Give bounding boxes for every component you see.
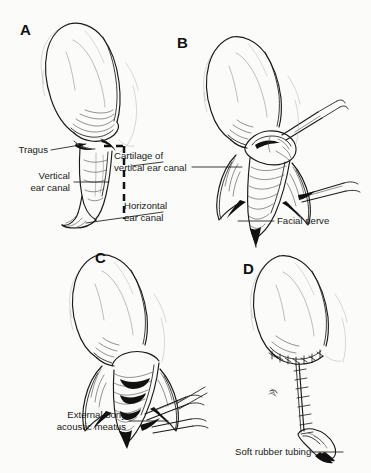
label-external-bony-acoustic-meatus: External bony acoustic meatus — [22, 409, 126, 432]
panel-letter-d: D — [243, 261, 254, 276]
illustration-artboard: .o { fill:none; stroke:#1a1a1a; stroke-w… — [0, 0, 371, 473]
label-facial-nerve: Facial nerve — [277, 215, 362, 227]
panel-letter-c: C — [95, 250, 106, 265]
panel-letter-b: B — [177, 35, 188, 50]
label-soft-rubber-tubing: Soft rubber tubing — [235, 446, 345, 458]
ear-surgery-figure: .o { fill:none; stroke:#1a1a1a; stroke-w… — [0, 0, 371, 473]
label-vertical-ear-canal: Vertical ear canal — [0, 170, 70, 193]
label-horizontal-ear-canal: Horizontal ear canal — [124, 200, 194, 223]
panel-letter-a: A — [20, 22, 31, 37]
label-tragus: Tragus — [0, 144, 48, 156]
label-cartilage-of-vertical-ear-canal: Cartilage of vertical ear canal — [114, 150, 199, 173]
panel-a-drawing — [41, 23, 163, 228]
panel-d-drawing — [251, 256, 347, 464]
